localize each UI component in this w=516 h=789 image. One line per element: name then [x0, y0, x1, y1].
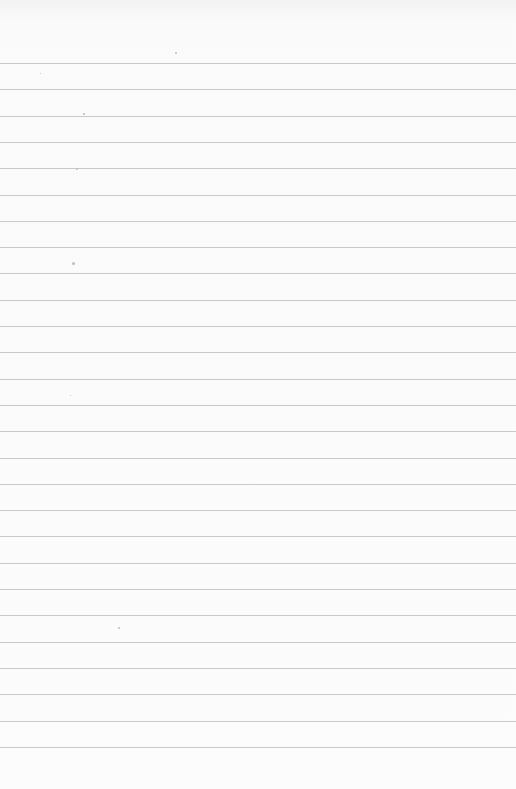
scan-speck: [72, 262, 75, 265]
scan-speck: [175, 52, 177, 54]
ruled-line: [0, 142, 516, 143]
ruled-line: [0, 431, 516, 432]
ruled-line: [0, 63, 516, 64]
ruled-line: [0, 273, 516, 274]
ruled-line: [0, 484, 516, 485]
ruled-line: [0, 510, 516, 511]
scan-speck: [118, 627, 120, 629]
scan-speck: [40, 73, 41, 74]
ruled-line: [0, 221, 516, 222]
ruled-line: [0, 615, 516, 616]
scan-speck: [76, 168, 78, 170]
ruled-line: [0, 668, 516, 669]
ruled-line: [0, 563, 516, 564]
lined-paper-sheet: [0, 0, 516, 789]
scan-speck: [70, 395, 71, 396]
ruled-line: [0, 326, 516, 327]
ruled-line: [0, 89, 516, 90]
ruled-line: [0, 536, 516, 537]
ruled-line: [0, 195, 516, 196]
ruled-line: [0, 458, 516, 459]
ruled-line: [0, 300, 516, 301]
ruled-line: [0, 405, 516, 406]
scan-speck: [83, 113, 85, 115]
ruled-line: [0, 589, 516, 590]
ruled-line: [0, 747, 516, 748]
ruled-line: [0, 721, 516, 722]
ruled-line: [0, 379, 516, 380]
ruled-line: [0, 247, 516, 248]
ruled-line: [0, 694, 516, 695]
ruled-line: [0, 116, 516, 117]
ruled-line: [0, 352, 516, 353]
ruled-line: [0, 642, 516, 643]
